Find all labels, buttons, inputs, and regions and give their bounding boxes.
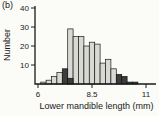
bar-light-gray-bars [100,63,105,84]
bar-light-gray-bars [106,59,111,84]
bar-dark-bars [62,69,67,84]
bar-light-gray-bars [68,29,73,84]
y-tick-label: 30 [20,23,29,32]
figure-panel-b: 1020304068.511 (b) Number Lower mandible… [0,0,159,116]
bar-light-gray-bars [95,44,100,84]
panel-label: (b) [2,1,13,10]
bar-dark-bars [116,75,121,85]
bar-light-gray-bars [84,46,89,84]
histogram-svg: 1020304068.511 [0,0,159,116]
x-tick-label: 11 [142,90,151,99]
x-tick-label: 6 [36,90,41,99]
bar-dark-bars [122,76,127,84]
y-axis-title: Number [1,15,13,75]
bar-light-gray-bars [111,69,116,84]
y-tick-label: 40 [20,4,29,13]
bar-light-gray-bars [52,76,57,84]
x-tick-label: 8.5 [86,90,98,99]
x-axis-title: Lower mandible length (mm) [34,101,159,114]
bar-light-gray-bars [73,37,78,85]
bar-dark-bars [68,78,73,84]
y-tick-label: 20 [20,42,29,51]
bar-light-gray-bars [79,37,84,85]
bar-light-gray-bars [89,42,94,84]
y-tick-label: 10 [20,61,29,70]
bar-light-gray-bars [57,73,62,84]
